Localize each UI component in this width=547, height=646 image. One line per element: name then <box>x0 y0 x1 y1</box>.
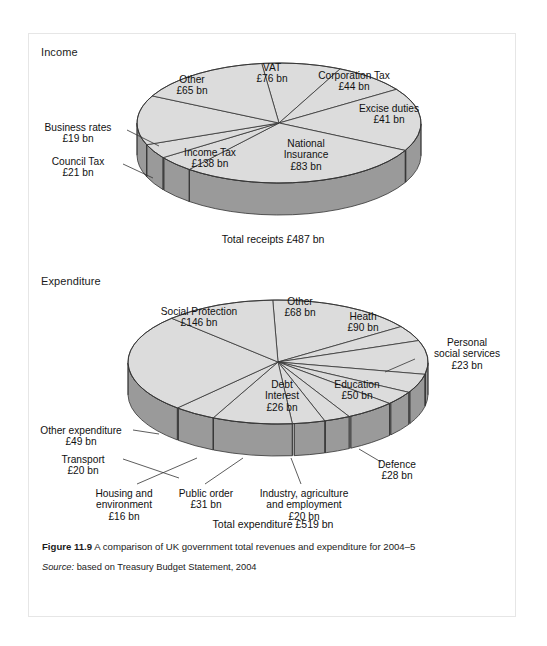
slice-label-industry: Industry, agriculture and employment £20… <box>245 488 363 522</box>
expenditure-wall-segment <box>294 421 325 456</box>
slice-label-other-income: Other £65 bn <box>157 74 227 97</box>
slice-label-education: Education £50 bn <box>319 379 395 402</box>
slice-label-heath: Heath £90 bn <box>334 311 392 334</box>
leader-industry <box>291 458 301 484</box>
slice-label-income-tax: Income Tax £138 bn <box>165 147 255 170</box>
slice-label-housing: Housing and environment £16 bn <box>79 488 169 522</box>
source-label: Source: <box>42 562 74 572</box>
leader-transport <box>123 459 179 478</box>
figure-caption: Figure 11.9 A comparison of UK governmen… <box>42 540 504 554</box>
expenditure-wall-segment <box>325 417 349 453</box>
slice-label-other-expenditure: Other expenditure £49 bn <box>29 425 133 448</box>
slice-label-business-rates: Business rates £19 bn <box>31 122 125 145</box>
slice-label-personal-social-services: Personal social services £23 bn <box>419 337 515 371</box>
slice-label-defence: Defence £28 bn <box>366 459 428 482</box>
slice-label-transport: Transport £20 bn <box>45 454 121 477</box>
slice-label-other-expenditure-slice: Other £68 bn <box>269 296 331 319</box>
slice-label-national-insurance: National Insurance £83 bn <box>266 138 346 172</box>
figure-page: Income Total receipts £487 bn Expenditur… <box>28 33 516 617</box>
slice-label-council-tax: Council Tax £21 bn <box>35 156 121 179</box>
figure-caption-text: A comparison of UK government total reve… <box>92 541 415 552</box>
leader-other-expenditure <box>133 430 159 434</box>
slice-label-social-protection: Social Protection £146 bn <box>139 306 259 329</box>
figure-number: Figure 11.9 <box>42 541 92 552</box>
slice-label-excise-duties: Excise duties £41 bn <box>339 103 439 126</box>
slice-label-vat: VAT £76 bn <box>237 62 307 85</box>
leader-housing <box>137 458 197 484</box>
slice-label-public-order: Public order £31 bn <box>165 488 247 511</box>
leader-public-order <box>205 458 243 484</box>
slice-label-debt-interest: Debt Interest £26 bn <box>255 379 309 413</box>
figure-source: Source: based on Treasury Budget Stateme… <box>42 561 504 574</box>
slice-label-corporation-tax: Corporation Tax £44 bn <box>299 70 409 93</box>
source-text: based on Treasury Budget Statement, 2004 <box>74 562 256 572</box>
